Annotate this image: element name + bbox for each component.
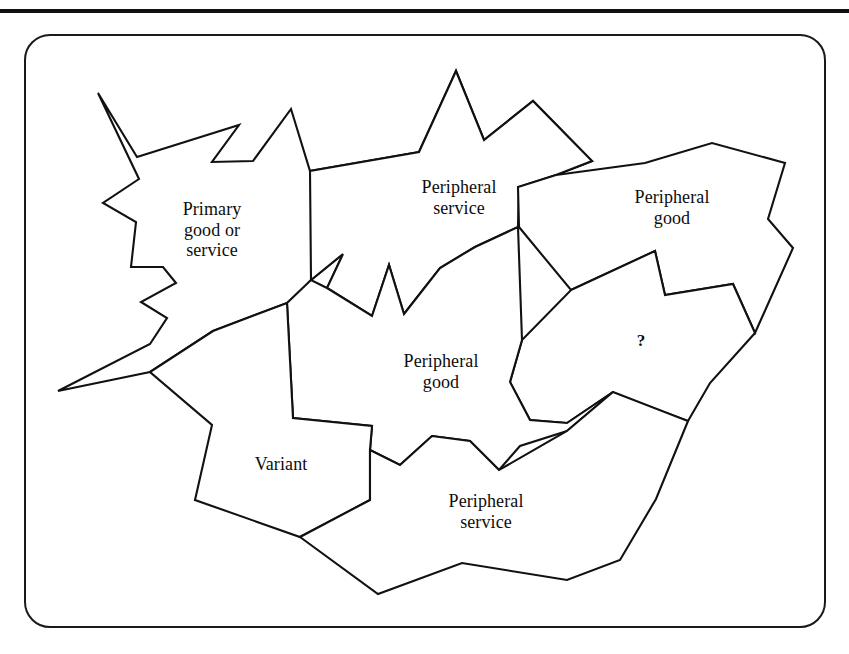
piece-label-variant: Variant xyxy=(255,454,308,475)
piece-label-peripheral-service-bottom: Peripheral service xyxy=(449,491,524,532)
piece-label-primary-good-or-service: Primary good or service xyxy=(183,199,242,261)
figure-frame-border xyxy=(24,34,826,628)
page-top-rule xyxy=(0,9,849,13)
piece-label-peripheral-good-center: Peripheral good xyxy=(404,351,479,392)
piece-label-peripheral-good-top-right: Peripheral good xyxy=(635,187,710,228)
piece-label-question-piece: ? xyxy=(637,331,646,350)
piece-label-peripheral-service-top: Peripheral service xyxy=(422,177,497,218)
figure-page: Primary good or servicePeripheral servic… xyxy=(0,0,849,654)
